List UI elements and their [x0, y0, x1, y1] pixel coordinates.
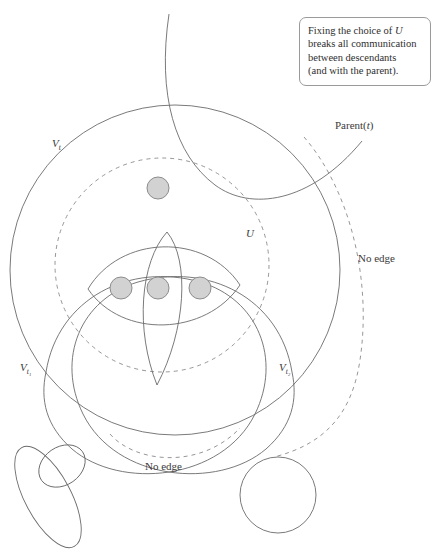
callout-line-1-symbol: U: [395, 25, 403, 36]
no-edge-arc-right: [274, 137, 363, 457]
callout-box: Fixing the choice of U breaks all commun…: [299, 17, 431, 86]
bottom-right-circle: [240, 457, 316, 533]
label-v-t: Vt: [52, 137, 62, 152]
label-u: U: [246, 227, 255, 239]
label-no-edge-bottom: No edge: [145, 460, 182, 472]
node-top: [147, 177, 169, 199]
label-parent: Parent(t): [335, 119, 374, 132]
label-v-t2: Vt₂: [279, 361, 291, 376]
callout-line-3: between descendants: [308, 51, 423, 64]
node-bottom-right: [189, 277, 211, 299]
callout-line-1: Fixing the choice of U: [308, 24, 423, 37]
callout-line-2: breaks all communication: [308, 37, 423, 50]
bottom-left-small-ellipse: [31, 436, 94, 496]
callout-line-4: (and with the parent).: [308, 64, 423, 77]
figure-page: Vt Vt₁ Vt₂ U Parent(t) No edge No edge F…: [0, 0, 442, 556]
node-bottom-mid: [147, 277, 169, 299]
node-bottom-left: [110, 277, 132, 299]
bottom-left-large-ellipse: [1, 437, 94, 556]
label-v-t1: Vt₁: [20, 361, 32, 376]
v-t-region-circle: [10, 105, 340, 435]
callout-line-1-text: Fixing the choice of: [308, 25, 395, 36]
narrow-lens-shape: [143, 232, 182, 385]
label-no-edge-right: No edge: [358, 252, 395, 264]
v-t1-region: [44, 277, 266, 474]
